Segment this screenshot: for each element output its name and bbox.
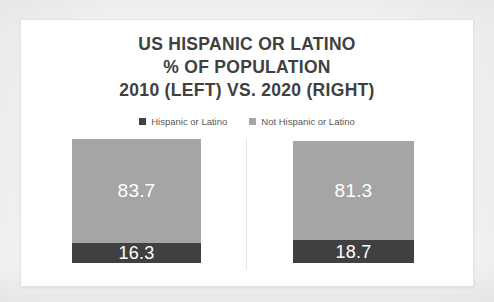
chart-title: US HISPANIC OR LATINO % OF POPULATION 20… [21, 33, 473, 102]
stacked-bar-2010[interactable]: 83.7 16.3 [72, 139, 201, 263]
panel-divider [246, 139, 247, 270]
legend-swatch-icon-not-hispanic [249, 118, 256, 125]
bar-segment-hispanic-2020[interactable]: 18.7 [293, 240, 414, 263]
chart-title-line-2: % OF POPULATION [21, 56, 473, 79]
bar-value-label-hispanic-2010: 16.3 [119, 244, 155, 262]
legend-item-not-hispanic-or-latino[interactable]: Not Hispanic or Latino [249, 116, 354, 127]
chart-title-line-3: 2010 (LEFT) VS. 2020 (RIGHT) [21, 79, 473, 102]
plot-area: 83.7 16.3 81.3 18.7 [21, 137, 475, 278]
bar-value-label-not-hispanic-2010: 83.7 [118, 181, 156, 200]
legend-swatch-icon-hispanic [139, 118, 146, 125]
bar-segment-not-hispanic-2010[interactable]: 83.7 [72, 139, 201, 243]
legend-item-hispanic-or-latino[interactable]: Hispanic or Latino [139, 116, 227, 127]
bar-value-label-hispanic-2020: 18.7 [336, 243, 372, 261]
bar-value-label-not-hispanic-2020: 81.3 [335, 181, 373, 200]
panel-2010: 83.7 16.3 [21, 137, 248, 278]
chart-title-line-1: US HISPANIC OR LATINO [21, 33, 473, 56]
panel-2020: 81.3 18.7 [248, 137, 475, 278]
legend-label-not-hispanic: Not Hispanic or Latino [261, 116, 354, 127]
legend-label-hispanic: Hispanic or Latino [151, 116, 227, 127]
chart-card: US HISPANIC OR LATINO % OF POPULATION 20… [20, 19, 474, 287]
stacked-bar-2020[interactable]: 81.3 18.7 [293, 141, 414, 263]
bar-segment-hispanic-2010[interactable]: 16.3 [72, 243, 201, 263]
chart-legend: Hispanic or Latino Not Hispanic or Latin… [21, 116, 473, 127]
bar-segment-not-hispanic-2020[interactable]: 81.3 [293, 141, 414, 240]
